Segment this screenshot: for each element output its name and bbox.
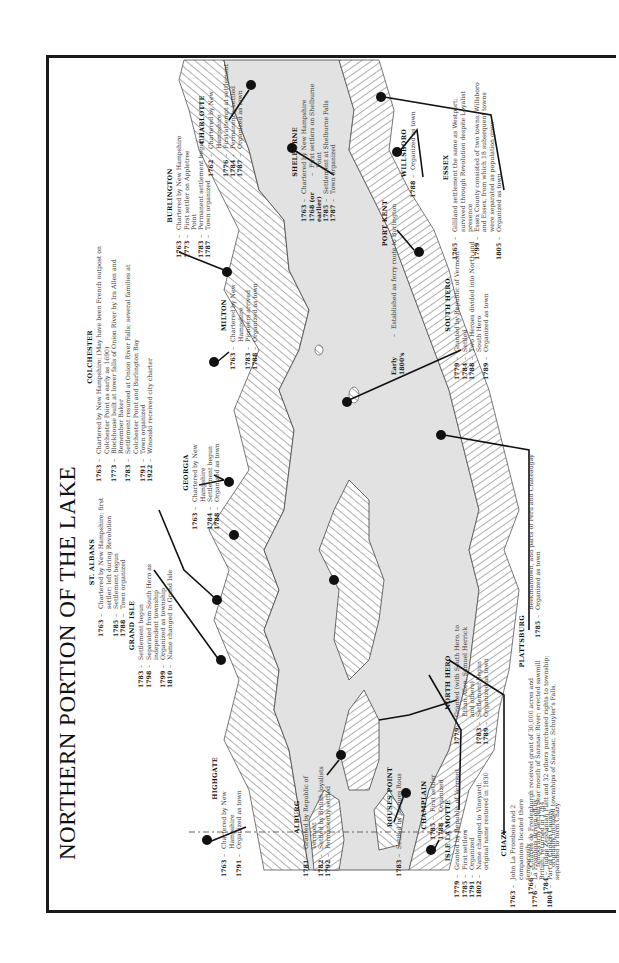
town-name: SHELBURNE	[292, 82, 299, 222]
town-chazy: CHAZY 1763–John La Frombois and 2 compan…	[501, 778, 560, 908]
town-isle-la-motte: ISLE LA MOTTE 1779–Granted by Republic o…	[445, 763, 490, 898]
town-milton: MILTON 1763–Chartered by New Hampshire 1…	[221, 260, 258, 370]
town-name: PORT KENT	[382, 200, 389, 375]
town-name: CHAZY	[501, 778, 508, 908]
town-port-kent: PORT KENT Early 1800's–Established as fe…	[382, 200, 405, 375]
town-name: WILLSBORO	[401, 108, 408, 198]
town-name: GEORGIA	[183, 415, 190, 530]
town-name: CHAMPLAIN	[421, 770, 428, 840]
town-highgate: HIGHGATE 1763–Chartered by New Hampshire…	[212, 757, 242, 877]
town-name: MILTON	[221, 260, 228, 370]
town-name: ALBURG	[294, 757, 301, 877]
town-shelburne: SHELBURNE 1763–Chartered by New Hampshir…	[292, 82, 337, 222]
map-page: NORTHERN PORTION OF THE LAKE ST. ALBANS …	[46, 55, 616, 913]
town-name: CHARLOTTE	[199, 62, 206, 177]
town-georgia: GEORGIA 1763–Chartered by New Hampshire …	[183, 415, 220, 530]
town-name: BURLINGTON	[167, 133, 174, 258]
town-colchester: COLCHESTER 1763–Chartered by New Hampshi…	[87, 232, 154, 482]
town-grand-isle: GRAND ISLE 1783–Settlement begun 1798–Se…	[129, 563, 174, 688]
town-south-hero: SOUTH HERO 1779–Granted by Republic of V…	[445, 230, 490, 380]
town-willsboro: WILLSBORO 1788–Organized as town	[401, 108, 417, 198]
town-name: ROUSES POINT	[387, 767, 394, 877]
page-title: NORTHERN PORTION OF THE LAKE	[55, 260, 81, 860]
town-name: ISLE LA MOTTE	[445, 763, 452, 898]
town-name: GRAND ISLE	[129, 563, 136, 688]
town-north-hero: NORTH HERO 1779–Granted (with South Hero…	[445, 620, 490, 745]
town-name: SOUTH HERO	[445, 230, 452, 380]
small-island	[315, 345, 323, 355]
town-alburg: ALBURG 1781–Granted by Republic of Vermo…	[294, 757, 331, 877]
town-champlain: CHAMPLAIN 1785–First settler 1788–Organi…	[421, 770, 444, 840]
town-charlotte: CHARLOTTE 1762–Chartered by New Hampshir…	[199, 62, 244, 177]
town-rouses-point: ROUSES POINT 1783–Settled by Jacques Rou…	[387, 767, 403, 877]
town-name: NORTH HERO	[445, 620, 452, 745]
town-name: COLCHESTER	[87, 232, 94, 482]
town-name: ST. ALBANS	[89, 487, 96, 637]
town-st-albans: ST. ALBANS 1763–Chartered by New Hampshi…	[89, 487, 126, 637]
town-name: HIGHGATE	[212, 757, 219, 877]
